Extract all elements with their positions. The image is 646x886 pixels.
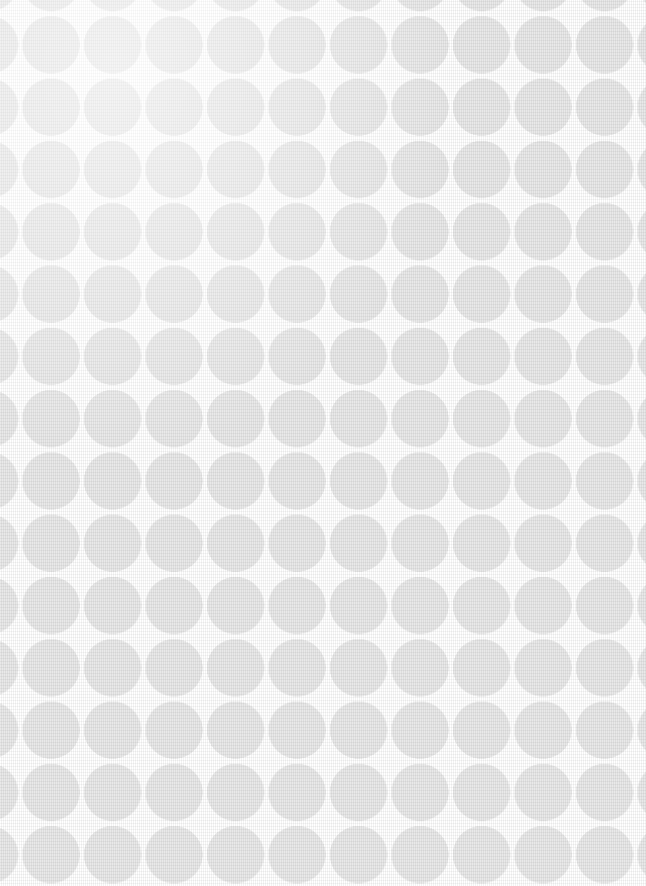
polka-dot-grid [0,0,646,886]
fabric-swatch-image [0,0,646,886]
